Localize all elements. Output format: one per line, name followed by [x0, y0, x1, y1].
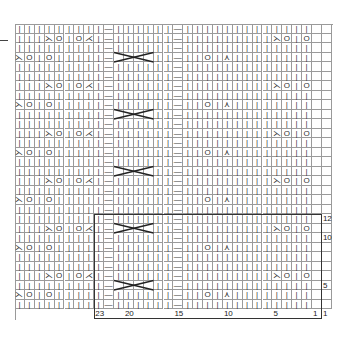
- row-number-label: 10: [323, 233, 332, 242]
- stitch-number-label: 20: [125, 309, 134, 318]
- stitch-number-label: 15: [174, 309, 183, 318]
- row-number-label: 5: [323, 281, 327, 290]
- row-number-label: 12: [323, 214, 332, 223]
- stitch-number-label: 10: [224, 309, 233, 318]
- stitch-number-label: 1: [313, 309, 317, 318]
- row-marker-tick: [0, 40, 8, 41]
- repeat-box: [94, 214, 322, 319]
- row-number-label: 1: [323, 309, 327, 318]
- stitch-number-label: 5: [273, 309, 277, 318]
- stitch-number-label: 23: [95, 309, 104, 318]
